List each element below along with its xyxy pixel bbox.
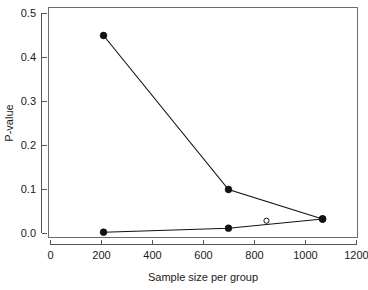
y-tick-labels: 0.5 0.4 0.3 0.2 0.1 0.0 bbox=[21, 7, 36, 239]
series-line-lower-series bbox=[104, 219, 323, 232]
y-tick-marks bbox=[42, 14, 47, 234]
data-point-open-circle-point-0[interactable] bbox=[264, 218, 269, 223]
data-series-layer bbox=[100, 32, 326, 235]
x-tick-label-2: 400 bbox=[143, 249, 161, 261]
data-point-lower-series-2[interactable] bbox=[319, 216, 326, 223]
y-tick-label-4: 0.1 bbox=[21, 183, 36, 195]
data-point-upper-series-1[interactable] bbox=[225, 186, 232, 193]
pvalue-vs-sample-size-chart: 0.5 0.4 0.3 0.2 0.1 0.0 0 200 400 600 80… bbox=[0, 0, 368, 290]
y-tick-label-3: 0.2 bbox=[21, 139, 36, 151]
y-tick-label-1: 0.4 bbox=[21, 51, 36, 63]
y-tick-label-2: 0.3 bbox=[21, 95, 36, 107]
data-point-lower-series-0[interactable] bbox=[100, 229, 107, 236]
x-tick-label-0: 0 bbox=[47, 249, 53, 261]
chart-figure: 0.5 0.4 0.3 0.2 0.1 0.0 0 200 400 600 80… bbox=[0, 0, 368, 290]
y-tick-label-0: 0.5 bbox=[21, 7, 36, 19]
x-axis-title: Sample size per group bbox=[148, 271, 258, 283]
x-tick-label-6: 1200 bbox=[344, 249, 368, 261]
x-tick-label-4: 800 bbox=[245, 249, 263, 261]
data-point-upper-series-0[interactable] bbox=[100, 32, 107, 39]
y-tick-label-5: 0.0 bbox=[21, 227, 36, 239]
x-tick-marks bbox=[51, 240, 357, 245]
plot-panel-border bbox=[49, 8, 358, 238]
data-point-lower-series-1[interactable] bbox=[225, 225, 232, 232]
y-axis-title: P-value bbox=[3, 104, 15, 141]
x-tick-label-1: 200 bbox=[92, 249, 110, 261]
x-tick-labels: 0 200 400 600 800 1000 1200 bbox=[47, 249, 368, 261]
series-line-upper-series bbox=[104, 36, 323, 219]
x-tick-label-3: 600 bbox=[194, 249, 212, 261]
x-tick-label-5: 1000 bbox=[293, 249, 317, 261]
